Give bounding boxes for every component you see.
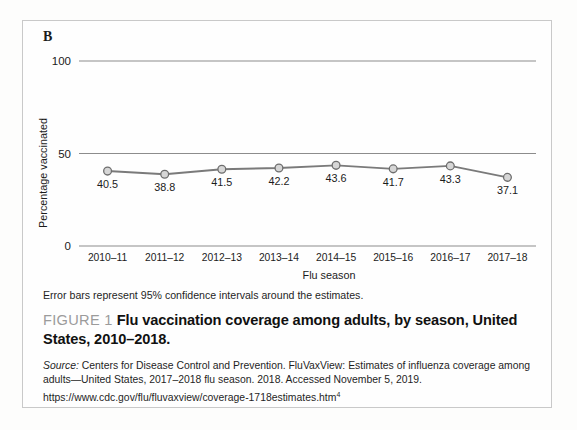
error-bar-note: Error bars represent 95% confidence inte… [43,288,523,302]
data-point-marker [446,162,454,170]
data-point-marker [332,161,340,169]
chart-plot-area: 050100 2010–112011–122012–132013–142014–… [23,21,553,286]
figure-title-text: Flu vaccination coverage among adults, b… [43,312,517,347]
data-point-label: 41.5 [211,176,232,188]
x-tick-label: 2016–17 [430,252,470,263]
data-point-marker [218,165,226,173]
data-point-label: 43.3 [440,173,461,185]
data-point-label: 37.1 [497,184,518,196]
x-tick-label: 2017–18 [487,252,527,263]
data-point-label: 41.7 [383,176,404,188]
chart-gridlines [79,61,536,246]
x-tick-label: 2014–15 [316,252,356,263]
data-point-label: 43.6 [326,172,347,184]
figure-number-label: FIGURE 1 [43,312,113,328]
data-point-label: 38.8 [154,181,175,193]
data-point-marker [504,173,512,181]
data-point-marker [161,170,169,178]
x-tick-label: 2012–13 [202,252,242,263]
data-point-marker [104,167,112,175]
data-point-value-labels: 40.538.841.542.243.641.743.337.1 [97,172,518,196]
source-superscript: 4 [336,391,340,398]
y-tick-label: 100 [52,55,71,67]
source-prefix: Source: [43,360,79,371]
source-text: Centers for Disease Control and Preventi… [43,360,530,403]
page-background: B 050100 2010–112011–122012–132013–14201… [0,0,577,430]
x-axis-tick-labels: 2010–112011–122012–132013–142014–152015–… [88,252,528,263]
data-point-marker [389,165,397,173]
figure-caption: FIGURE 1 Flu vaccination coverage among … [43,311,539,349]
line-chart-svg: 050100 2010–112011–122012–132013–142014–… [23,21,553,286]
y-axis-title: Percentage vaccinated [37,118,49,228]
data-point-label: 40.5 [97,178,118,190]
data-point-label: 42.2 [268,175,289,187]
x-tick-label: 2013–14 [259,252,299,263]
data-point-marker [275,164,283,172]
y-tick-label: 50 [58,148,71,160]
x-tick-label: 2011–12 [145,252,185,263]
y-tick-label: 0 [65,240,71,252]
source-citation: Source: Centers for Disease Control and … [43,359,539,406]
y-axis-tick-labels: 050100 [52,55,71,252]
figure-container: B 050100 2010–112011–122012–132013–14201… [22,20,552,408]
x-tick-label: 2015–16 [373,252,413,263]
x-axis-title: Flu season [303,269,356,281]
x-tick-label: 2010–11 [88,252,128,263]
